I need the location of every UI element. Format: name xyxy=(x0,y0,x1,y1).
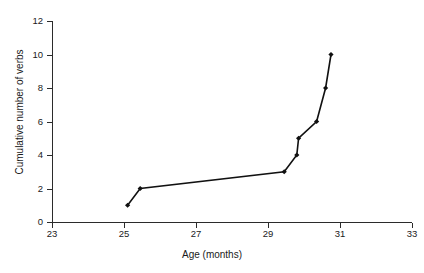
series-markers-group xyxy=(125,52,334,208)
series-line-cumulative-verbs xyxy=(128,55,331,206)
data-point xyxy=(328,52,333,57)
data-point xyxy=(323,85,328,90)
series-layer xyxy=(0,0,424,273)
chart-figure: 0 2 4 6 8 10 12 23 25 27 29 31 33 Age (m… xyxy=(0,0,424,273)
